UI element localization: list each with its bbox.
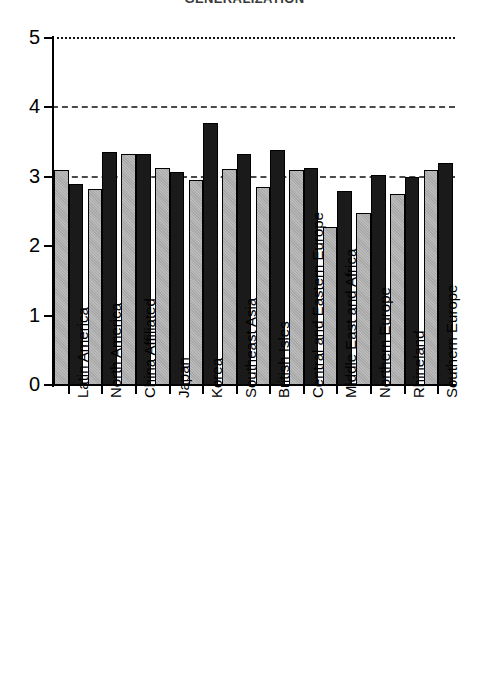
x-tick-4 bbox=[202, 385, 204, 394]
x-tick-2 bbox=[135, 385, 137, 394]
x-category-label-10: Rhineland bbox=[411, 330, 426, 398]
y-tick-label-4: 4 bbox=[20, 96, 40, 116]
x-tick-3 bbox=[169, 385, 171, 394]
x-category-label-3: Japan bbox=[176, 357, 191, 398]
bar-gray-0 bbox=[54, 170, 69, 385]
y-tick-label-3: 3 bbox=[20, 166, 40, 186]
x-category-label-7: Central and Eastern Europe bbox=[310, 212, 325, 398]
x-category-label-8: Middle East and Africa bbox=[343, 249, 358, 398]
y-tick-label-5: 5 bbox=[20, 27, 40, 47]
x-tick-8 bbox=[336, 385, 338, 394]
x-tick-0 bbox=[68, 385, 70, 394]
x-category-label-6: British Isles bbox=[276, 321, 291, 398]
x-category-label-5: Southeast Asia bbox=[243, 298, 258, 398]
x-category-label-11: Southern Europe bbox=[444, 285, 459, 398]
x-tick-9 bbox=[370, 385, 372, 394]
bar-black-4 bbox=[203, 123, 218, 385]
x-tick-10 bbox=[404, 385, 406, 394]
y-tick-label-2: 2 bbox=[20, 235, 40, 255]
x-tick-5 bbox=[236, 385, 238, 394]
generalization-bar-chart: GENERALIZATION 012345 Latin AmericaNorth… bbox=[0, 0, 489, 697]
x-category-label-1: North America bbox=[108, 303, 123, 398]
x-tick-11 bbox=[437, 385, 439, 394]
gridline-5 bbox=[52, 37, 455, 39]
x-tick-1 bbox=[101, 385, 103, 394]
x-category-label-2: China Affiliated bbox=[142, 298, 157, 398]
x-category-label-4: Korea bbox=[209, 358, 224, 398]
bar-gray-5 bbox=[222, 169, 237, 385]
x-tick-7 bbox=[303, 385, 305, 394]
gridline-4 bbox=[52, 106, 455, 108]
bar-black-3 bbox=[170, 172, 185, 385]
x-category-label-9: Northern Europe bbox=[377, 287, 392, 398]
chart-title: GENERALIZATION bbox=[0, 0, 489, 3]
bar-gray-4 bbox=[189, 180, 204, 385]
y-tick-label-0: 0 bbox=[20, 374, 40, 394]
x-tick-6 bbox=[269, 385, 271, 394]
x-category-label-0: Latin America bbox=[75, 307, 90, 398]
y-tick-label-1: 1 bbox=[20, 305, 40, 325]
